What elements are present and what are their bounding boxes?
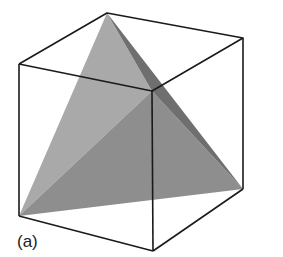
figure-label: (a): [17, 232, 38, 251]
cube-tetrahedron-diagram: (a): [0, 0, 283, 257]
